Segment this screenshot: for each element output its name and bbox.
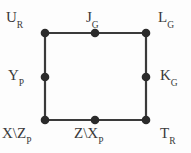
node-label-y-sub: P [19, 78, 24, 88]
node-l [142, 29, 151, 38]
node-label-u: UR [6, 10, 23, 29]
node-k [142, 73, 151, 82]
node-u [41, 29, 50, 38]
node-label-t: TR [160, 126, 176, 145]
node-label-l-base: L [158, 9, 167, 25]
node-label-k-sub: G [171, 78, 178, 88]
node-label-l: LG [158, 10, 174, 29]
node-label-y-base: Y [8, 67, 19, 83]
node-label-j: JG [86, 10, 99, 29]
node-label-j-sub: G [92, 20, 99, 30]
node-label-y: YP [8, 68, 24, 87]
node-label-l-sub: G [167, 20, 174, 30]
node-label-zx-sub: P [98, 136, 103, 146]
node-label-u-base: U [6, 9, 17, 25]
node-label-xz: X\ZP [2, 126, 31, 145]
node-t [142, 116, 151, 125]
node-label-xz-base: X\Z [2, 125, 26, 141]
node-zx [91, 116, 100, 125]
node-label-zx: Z\XP [74, 126, 103, 145]
node-label-k-base: K [160, 67, 171, 83]
node-label-u-sub: R [17, 20, 23, 30]
node-y [41, 73, 50, 82]
node-label-k: KG [160, 68, 178, 87]
node-label-t-sub: R [169, 136, 175, 146]
node-xz [41, 116, 50, 125]
node-label-j-base: J [86, 9, 92, 25]
node-label-t-base: T [160, 125, 169, 141]
node-label-xz-sub: P [26, 136, 31, 146]
node-label-zx-base: Z\X [74, 125, 98, 141]
graph-diagram: UR JG LG YP KG X\ZP Z\XP TR [0, 0, 191, 153]
